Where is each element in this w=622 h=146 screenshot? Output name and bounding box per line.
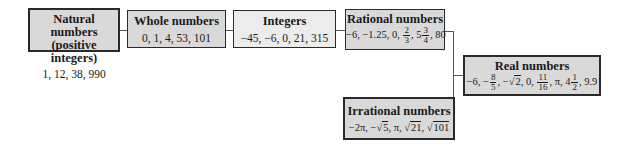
whole-numbers-box: Whole numbers 0, 1, 4, 53, 101	[127, 10, 226, 48]
fraction: 12	[571, 73, 578, 92]
rational-title: Rational numbers	[346, 13, 444, 26]
real-numbers-box: Real numbers −6, −85, −√2, 0, 1116, π, 4…	[463, 55, 601, 96]
fraction: 85	[490, 73, 497, 92]
integers-box: Integers −45, −6, 0, 21, 315	[233, 10, 336, 48]
natural-numbers-box: Natural numbers (positive integers) 1, 1…	[28, 8, 120, 52]
fraction: 1116	[537, 73, 548, 92]
fraction: 23	[403, 26, 410, 45]
rational-values: −6, −1.25, 0, 23, 534, 80	[346, 26, 444, 45]
irrational-numbers-box: Irrational numbers −2π, −√5, π, √21, √10…	[343, 97, 455, 140]
connector-real-in	[453, 75, 463, 76]
integers-title: Integers	[234, 15, 335, 28]
whole-values: 0, 1, 4, 53, 101	[128, 32, 225, 44]
whole-title: Whole numbers	[128, 15, 225, 28]
real-values: −6, −85, −√2, 0, 1116, π, 412, 9.9	[465, 73, 599, 92]
irrational-values: −2π, −√5, π, √21, √101	[345, 122, 453, 133]
connector-integers-rational	[335, 30, 345, 31]
natural-title-1: Natural numbers	[30, 13, 118, 39]
natural-values: 1, 12, 38, 990	[30, 68, 118, 80]
natural-title-2: (positive integers)	[30, 39, 118, 65]
fraction: 34	[422, 26, 429, 45]
irrational-title: Irrational numbers	[345, 105, 453, 118]
integers-values: −45, −6, 0, 21, 315	[234, 32, 335, 44]
rational-numbers-box: Rational numbers −6, −1.25, 0, 23, 534, …	[345, 9, 445, 50]
real-title: Real numbers	[465, 60, 599, 73]
